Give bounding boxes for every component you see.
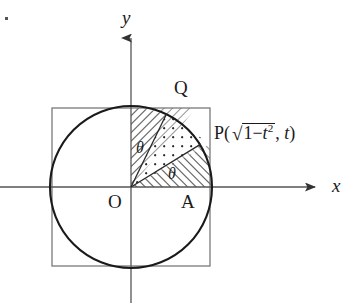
x-axis-label: x (332, 176, 340, 195)
radicand-exponent: 2 (268, 122, 274, 134)
p-comma: , (275, 123, 280, 143)
angle-label-upper-theta: θ (136, 140, 144, 156)
p-prefix: P( (214, 123, 230, 143)
point-label-p: P(√1−t2, t) (214, 123, 295, 142)
radicand: 1−t2 (242, 123, 275, 142)
point-label-q: Q (174, 78, 188, 97)
angle-label-lower-theta: θ (168, 166, 176, 182)
p-radical-expression: √1−t2 (230, 123, 275, 142)
geometry-figure: y x O A Q θ θ P(√1−t2, t) (0, 0, 352, 303)
point-label-o: O (108, 192, 122, 211)
radicand-minus: − (252, 123, 262, 143)
figure-canvas (0, 0, 352, 303)
p-suffix: ) (289, 123, 295, 143)
point-label-a: A (181, 192, 195, 211)
y-axis-label: y (122, 8, 130, 27)
radical-sign: √ (232, 123, 242, 144)
